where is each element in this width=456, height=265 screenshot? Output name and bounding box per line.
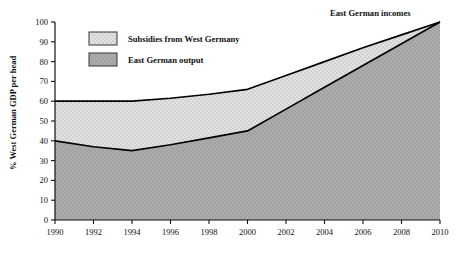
annotation-east-german-incomes: East German incomes — [330, 8, 411, 18]
legend-swatch-output — [89, 53, 117, 66]
x-tick-label: 2006 — [355, 227, 372, 237]
y-tick-label: 40 — [40, 136, 49, 146]
y-tick-label: 70 — [40, 76, 49, 86]
x-tick-label: 2004 — [316, 227, 334, 237]
y-tick-label: 80 — [40, 57, 49, 67]
y-tick-label: 20 — [40, 175, 49, 185]
x-tick-label: 1992 — [85, 227, 102, 237]
x-tick-label: 1998 — [201, 227, 218, 237]
y-axis-title: % West German GDP per head — [8, 56, 18, 170]
x-tick-label: 2008 — [393, 227, 410, 237]
legend-label-output: East German output — [128, 55, 204, 65]
y-tick-label: 30 — [40, 156, 49, 166]
gdp-area-chart: 0102030405060708090100 19901992199419961… — [0, 0, 456, 265]
y-tick-label: 0 — [44, 215, 48, 225]
y-tick-label: 50 — [40, 116, 49, 126]
x-tick-label: 1994 — [124, 227, 142, 237]
x-tick-label: 2010 — [432, 227, 449, 237]
y-tick-label: 90 — [40, 37, 49, 47]
chart-container: 0102030405060708090100 19901992199419961… — [0, 0, 456, 265]
x-tick-label: 1990 — [47, 227, 64, 237]
x-tick-label: 2000 — [239, 227, 256, 237]
legend-label-subsidies: Subsidies from West Germany — [128, 34, 240, 44]
legend-swatch-subsidies — [89, 32, 117, 45]
y-tick-label: 100 — [35, 17, 48, 27]
y-tick-label: 10 — [40, 195, 49, 205]
x-tick-label: 2002 — [278, 227, 295, 237]
x-tick-label: 1996 — [162, 227, 179, 237]
y-tick-label: 60 — [40, 96, 49, 106]
